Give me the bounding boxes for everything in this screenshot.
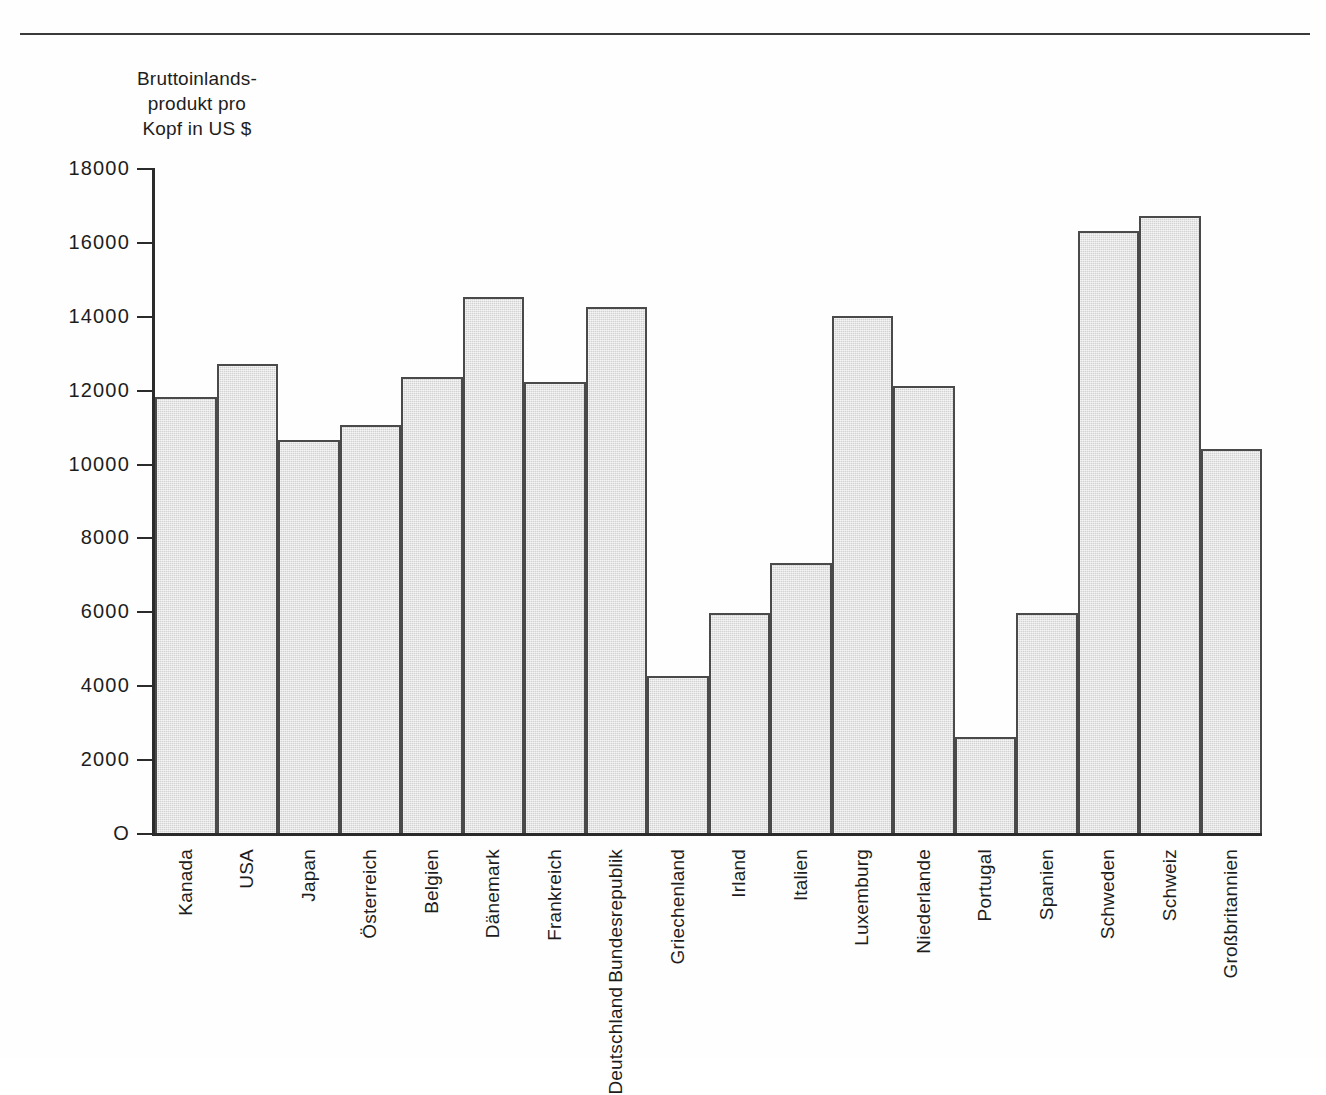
- bar-cell: [1016, 168, 1078, 833]
- category-label-bundesrepublik-deutschland: BundesrepublikDeutschland: [605, 849, 627, 1095]
- y-tick-label: 4000: [81, 674, 130, 697]
- category-label-line: Schweiz: [1159, 849, 1181, 921]
- category-label-line: Kanada: [175, 849, 197, 916]
- category-cell: Dänemark: [463, 843, 525, 1043]
- bar-belgien[interactable]: [401, 377, 463, 833]
- category-label-line: Griechenland: [667, 849, 689, 964]
- category-cell: Spanien: [1016, 843, 1078, 1043]
- bar-cell: [709, 168, 771, 833]
- y-tick-label: 16000: [68, 230, 130, 253]
- category-label-line: Luxemburg: [851, 849, 873, 946]
- bar-irland[interactable]: [709, 613, 771, 833]
- category-label-line: Irland: [728, 849, 750, 898]
- plot-area: O200040006000800010000120001400016000180…: [152, 168, 1262, 833]
- category-label-spanien: Spanien: [1036, 849, 1058, 920]
- category-label--sterreich: Österreich: [359, 849, 381, 939]
- category-label-italien: Italien: [790, 849, 812, 901]
- category-cell: Italien: [770, 843, 832, 1043]
- category-label-line: Schweden: [1097, 849, 1119, 939]
- category-label-line: Portugal: [974, 849, 996, 921]
- y-tick-mark: [137, 242, 152, 244]
- category-cell: Portugal: [955, 843, 1017, 1043]
- y-tick-mark: [137, 168, 152, 170]
- bar-kanada[interactable]: [155, 397, 217, 833]
- bar-series: [155, 168, 1262, 833]
- bar-cell: [1078, 168, 1140, 833]
- y-tick-mark: [137, 464, 152, 466]
- bar-italien[interactable]: [770, 563, 832, 833]
- bar-cell: [155, 168, 217, 833]
- bar-griechenland[interactable]: [647, 676, 709, 833]
- category-cell: Schweden: [1078, 843, 1140, 1043]
- bar-cell: [1139, 168, 1201, 833]
- bar-cell: [463, 168, 525, 833]
- category-label-d-nemark: Dänemark: [482, 849, 504, 938]
- bar-niederlande[interactable]: [893, 386, 955, 833]
- category-label-line: Spanien: [1036, 849, 1058, 920]
- bar-gro-britannien[interactable]: [1201, 449, 1263, 833]
- category-label-line: Belgien: [421, 849, 443, 914]
- y-tick-label: 2000: [81, 748, 130, 771]
- bar-cell: [401, 168, 463, 833]
- bar-usa[interactable]: [217, 364, 279, 833]
- y-tick-mark: [137, 611, 152, 613]
- y-tick-label: 18000: [68, 157, 130, 180]
- category-label-luxemburg: Luxemburg: [851, 849, 873, 946]
- bar-d-nemark[interactable]: [463, 297, 525, 833]
- bar-cell: [524, 168, 586, 833]
- category-label-line: Niederlande: [913, 849, 935, 954]
- y-tick-label: 12000: [68, 378, 130, 401]
- y-tick-mark: [137, 316, 152, 318]
- category-label-griechenland: Griechenland: [667, 849, 689, 964]
- bar-portugal[interactable]: [955, 737, 1017, 833]
- y-axis-title: Bruttoinlands- produkt pro Kopf in US $: [82, 66, 312, 141]
- category-label-line: Bundesrepublik: [605, 849, 627, 983]
- category-label-irland: Irland: [728, 849, 750, 898]
- category-cell: USA: [217, 843, 279, 1043]
- bar-spanien[interactable]: [1016, 613, 1078, 833]
- category-cell: Schweiz: [1139, 843, 1201, 1043]
- category-label-portugal: Portugal: [974, 849, 996, 921]
- category-label-usa: USA: [236, 849, 258, 889]
- bar-schweiz[interactable]: [1139, 216, 1201, 833]
- category-label-kanada: Kanada: [175, 849, 197, 916]
- bar-cell: [770, 168, 832, 833]
- y-tick-label: 8000: [81, 526, 130, 549]
- y-tick-mark: [137, 685, 152, 687]
- y-tick-label: 6000: [81, 600, 130, 623]
- category-cell: Luxemburg: [832, 843, 894, 1043]
- bar-cell: [586, 168, 648, 833]
- bar-cell: [340, 168, 402, 833]
- category-cell: Österreich: [340, 843, 402, 1043]
- category-cell: Griechenland: [647, 843, 709, 1043]
- category-label-gro-britannien: Großbritannien: [1220, 849, 1242, 979]
- category-cell: BundesrepublikDeutschland: [586, 843, 648, 1043]
- category-cell: Belgien: [401, 843, 463, 1043]
- bar-cell: [832, 168, 894, 833]
- category-label-niederlande: Niederlande: [913, 849, 935, 954]
- category-cell: Niederlande: [893, 843, 955, 1043]
- y-tick-label: 14000: [68, 304, 130, 327]
- category-label-line: Deutschland: [605, 987, 627, 1095]
- bar-cell: [893, 168, 955, 833]
- y-tick-label: 10000: [68, 452, 130, 475]
- x-axis-line: [152, 833, 1262, 836]
- category-label-line: Österreich: [359, 849, 381, 939]
- category-label-line: Dänemark: [482, 849, 504, 938]
- category-cell: Kanada: [155, 843, 217, 1043]
- category-label-line: Frankreich: [544, 849, 566, 941]
- bar-japan[interactable]: [278, 440, 340, 833]
- bar-bundesrepublik-deutschland[interactable]: [586, 307, 648, 833]
- category-label-belgien: Belgien: [421, 849, 443, 914]
- category-cell: Japan: [278, 843, 340, 1043]
- category-cell: Großbritannien: [1201, 843, 1263, 1043]
- bar--sterreich[interactable]: [340, 425, 402, 833]
- category-label-line: Italien: [790, 849, 812, 901]
- y-tick-mark: [137, 537, 152, 539]
- category-label-line: Großbritannien: [1220, 849, 1242, 979]
- bar-luxemburg[interactable]: [832, 316, 894, 833]
- bar-cell: [647, 168, 709, 833]
- bar-frankreich[interactable]: [524, 382, 586, 833]
- bar-cell: [1201, 168, 1263, 833]
- bar-schweden[interactable]: [1078, 231, 1140, 833]
